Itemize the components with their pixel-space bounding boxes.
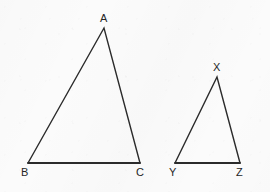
triangle-abc-group	[28, 28, 140, 163]
vertex-label-b: B	[21, 167, 29, 178]
geometry-figure-canvas: A B C X Y Z	[0, 0, 270, 192]
triangle-abc-sides	[28, 28, 140, 163]
triangle-xyz-sides	[175, 77, 240, 163]
vertex-label-x: X	[213, 62, 221, 73]
vertex-label-y: Y	[169, 167, 177, 178]
vertex-label-c: C	[136, 167, 144, 178]
vertex-label-z: Z	[236, 167, 243, 178]
vertex-label-a: A	[100, 13, 108, 24]
triangles-svg	[0, 0, 270, 192]
triangle-xyz-group	[175, 77, 240, 163]
